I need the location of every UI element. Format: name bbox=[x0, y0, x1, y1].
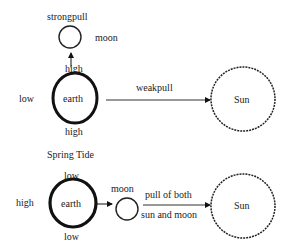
earth-label-bottom: earth bbox=[61, 199, 81, 209]
moon-label-top: moon bbox=[95, 33, 118, 43]
moon-circle-top bbox=[59, 26, 81, 48]
pull-label-line1: pull of both bbox=[145, 190, 192, 200]
earth-label-top: earth bbox=[63, 94, 83, 104]
low-label-left: low bbox=[19, 94, 34, 104]
sun-label-bottom: Sun bbox=[234, 201, 250, 211]
moon-circle-bottom bbox=[116, 198, 138, 220]
spring-tide-title: Spring Tide bbox=[47, 150, 94, 160]
sun-label-top: Sun bbox=[234, 95, 250, 105]
low-label-spring-bottom: low bbox=[64, 232, 79, 242]
high-label-top: high bbox=[65, 64, 83, 74]
moon-label-bottom: moon bbox=[111, 184, 134, 194]
high-label-bottom: high bbox=[65, 127, 83, 137]
strong-pull-label: strongpull bbox=[47, 12, 88, 22]
high-label-spring-left: high bbox=[16, 198, 34, 208]
pull-label-line2: sun and moon bbox=[141, 210, 197, 220]
weak-pull-label: weakpull bbox=[136, 83, 173, 93]
low-label-spring-top: low bbox=[64, 171, 79, 181]
